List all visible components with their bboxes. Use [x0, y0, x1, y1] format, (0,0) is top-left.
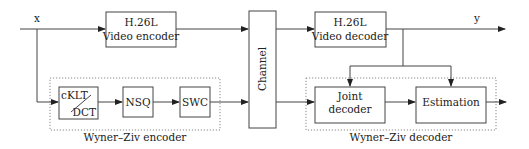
- decoder-group-label: Wyner–Ziv decoder: [350, 131, 454, 143]
- transform-block: cKLT DCT: [59, 87, 98, 119]
- svg-text:decoder: decoder: [328, 103, 372, 115]
- nsq-block: NSQ: [123, 87, 153, 117]
- channel-block: Channel: [249, 11, 276, 128]
- svg-text:DCT: DCT: [73, 106, 96, 118]
- input-branch-arrow: [37, 29, 58, 102]
- svg-text:SWC: SWC: [182, 96, 208, 108]
- svg-text:Channel: Channel: [256, 46, 268, 91]
- video-decoder-block: H.26L Video decoder: [311, 12, 389, 47]
- svg-text:H.26L: H.26L: [125, 16, 158, 28]
- svg-text:Joint: Joint: [337, 90, 364, 102]
- svg-text:H.26L: H.26L: [334, 16, 367, 28]
- svg-text:Video decoder: Video decoder: [311, 30, 389, 42]
- joint-decoder-block: Joint decoder: [315, 87, 385, 123]
- output-signal-label: y: [473, 12, 480, 24]
- input-signal-label: x: [34, 12, 40, 24]
- swc-block: SWC: [180, 87, 210, 117]
- svg-text:cKLT: cKLT: [61, 89, 88, 101]
- svg-text:Estimation: Estimation: [422, 96, 480, 108]
- wyner-ziv-diagram: x y H.26L Video encoder Channel H.26L Vi…: [0, 0, 529, 149]
- encoder-group-label: Wyner–Ziv encoder: [84, 131, 188, 143]
- svg-text:NSQ: NSQ: [126, 96, 151, 108]
- svg-text:Video encoder: Video encoder: [102, 30, 180, 42]
- video-encoder-block: H.26L Video encoder: [102, 12, 180, 47]
- estimation-block: Estimation: [416, 87, 486, 123]
